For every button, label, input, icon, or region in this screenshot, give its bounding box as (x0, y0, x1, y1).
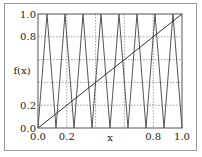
series-group (38, 14, 182, 128)
x-tick-label: 0.2 (59, 131, 75, 142)
y-axis-label: f(x) (13, 65, 30, 76)
x-axis-label: x (107, 132, 113, 143)
series-line-1 (38, 14, 182, 128)
y-tick-label: 0.0 (20, 123, 36, 134)
y-tick-label: 0.2 (20, 100, 36, 111)
x-tick-label: 0.8 (145, 131, 161, 142)
y-tick-label: 1.0 (20, 9, 36, 20)
y-tick-label: 0.8 (20, 31, 36, 42)
chart: 0.00.20.81.00.00.20.81.0 x f(x) (0, 0, 202, 157)
x-tick-label: 1.0 (174, 131, 190, 142)
